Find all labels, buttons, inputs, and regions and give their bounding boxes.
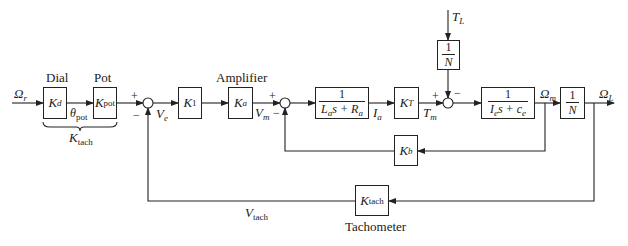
signal-v-tach: Vtach <box>245 206 268 222</box>
block-torque-kt: KT <box>394 87 419 119</box>
block-k1: K1 <box>178 87 202 119</box>
signal-i-a: Ia <box>373 106 382 122</box>
caption-pot: Pot <box>94 71 111 84</box>
block-tachometer-ktach: Ktach <box>355 185 389 216</box>
sum1-plus: + <box>131 90 138 102</box>
block-load-gear-1-over-n: 1N <box>437 40 460 70</box>
caption-amplifier: Amplifier <box>216 71 267 84</box>
brace-label-k-tach: Ktach <box>69 131 93 147</box>
signal-theta-pot: θpot <box>70 107 87 122</box>
block-back-emf-kb: Kb <box>394 135 418 166</box>
block-dial-kd: Kd <box>43 87 67 119</box>
diagram-wires <box>0 0 628 246</box>
sum2-minus: − <box>273 107 280 119</box>
signal-t-m: Tm <box>423 106 437 122</box>
signal-omega-l: ΩL <box>599 87 613 103</box>
sum2-plus: + <box>269 90 276 102</box>
block-gear-1-over-n: 1N <box>560 87 585 119</box>
sum3-plus: + <box>432 90 439 102</box>
block-amplifier-ka: Ka <box>228 87 253 119</box>
block-pot-kpot: Kpot <box>93 87 117 119</box>
block-mechanical-tf: 1Ies + ce <box>481 87 535 119</box>
block-armature-tf: 1Las + Ra <box>315 87 369 119</box>
caption-tachometer: Tachometer <box>345 220 406 233</box>
signal-v-e: Ve <box>156 107 168 123</box>
caption-dial: Dial <box>46 71 68 84</box>
signal-omega-m: Ωm <box>540 87 556 103</box>
sum1-minus: − <box>133 109 140 121</box>
sum3-minus: − <box>454 87 461 99</box>
signal-t-l: TL <box>452 10 464 26</box>
signal-v-m: Vm <box>255 106 269 122</box>
signal-omega-r: Ωr <box>14 87 27 103</box>
